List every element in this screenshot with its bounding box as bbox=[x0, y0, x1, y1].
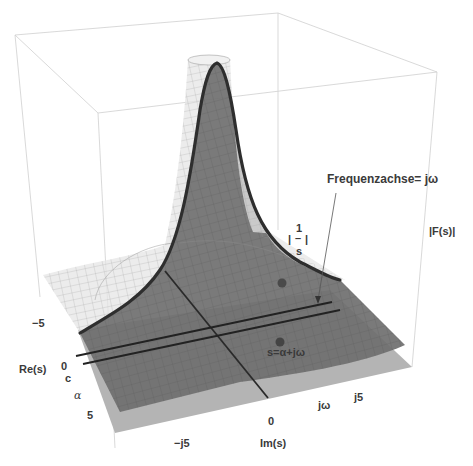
imag-axis-tick-j5: j5 bbox=[354, 392, 363, 403]
fraction-denominator: s bbox=[296, 246, 302, 257]
frequency-axis-annotation: Frequenzachse= jω bbox=[327, 173, 438, 185]
tube-top bbox=[188, 55, 230, 65]
dark-surface-mesh bbox=[80, 63, 405, 412]
real-axis-tick-0: 0 bbox=[61, 361, 67, 372]
real-axis-tick-5: 5 bbox=[87, 410, 93, 421]
pipe-right: | bbox=[305, 234, 308, 245]
imag-axis-tick-neg-j5: −j5 bbox=[174, 438, 190, 449]
imag-axis-tick-0: 0 bbox=[268, 416, 274, 427]
imag-axis-symbol-jw: jω bbox=[318, 400, 330, 411]
surface-function-label: 1 | – | s bbox=[287, 223, 311, 259]
real-axis-symbol-c: c bbox=[65, 373, 71, 384]
point-annotation: s=α+jω bbox=[267, 347, 305, 358]
figure-stage: Frequenzachse= jω |F(s)| 1 | – | s s=α+j… bbox=[0, 0, 473, 466]
surface-point bbox=[278, 279, 287, 288]
real-axis-title: Re(s) bbox=[19, 364, 47, 375]
real-axis-symbol-alpha: α bbox=[74, 390, 81, 401]
imag-axis-title: Im(s) bbox=[260, 438, 286, 449]
surface-plot-3d bbox=[0, 0, 473, 466]
vertical-axis-label: |F(s)| bbox=[429, 226, 455, 237]
pipe-left: | bbox=[288, 234, 291, 245]
fraction-bar: – bbox=[295, 233, 301, 244]
real-axis-tick-neg5: −5 bbox=[32, 318, 45, 329]
